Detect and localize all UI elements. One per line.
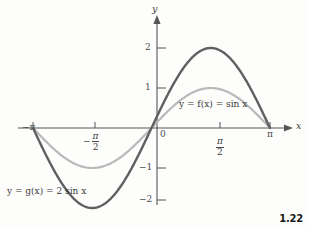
y-tick-label-1: 1 — [145, 83, 151, 92]
x-tick-label-pi-over-2: π 2 — [216, 131, 224, 157]
y-tick-label-neg-2: −2 — [139, 195, 152, 204]
figure-1-22: y x 0 −π − π 2 π 2 π 2 1 −1 −2 — [0, 0, 310, 230]
fraction-numerator: π — [216, 137, 224, 146]
y-tick-label-2: 2 — [145, 43, 151, 52]
x-axis — [18, 124, 293, 131]
x-tick-label-pi: π — [267, 130, 273, 139]
fraction-denominator: 2 — [216, 148, 224, 157]
origin-label: 0 — [160, 130, 166, 139]
minus-sign: − — [83, 137, 91, 146]
x-tick-label-neg-pi-over-2: − π 2 — [83, 131, 99, 152]
x-tick-label-neg-pi: −π — [22, 123, 35, 132]
figure-number: 1.22 — [279, 213, 303, 224]
curve-label-f: y = f(x) = sin x — [179, 100, 247, 109]
fraction-denominator: 2 — [92, 143, 100, 152]
fraction-numerator: π — [92, 132, 100, 141]
y-axis-label: y — [152, 4, 157, 14]
y-tick-marks — [157, 48, 166, 200]
y-tick-label-neg-1: −1 — [139, 163, 152, 172]
x-axis-label: x — [296, 121, 301, 131]
minus-pi-text: −π — [22, 122, 35, 132]
curve-label-g: y = g(x) = 2 sin x — [7, 187, 86, 196]
